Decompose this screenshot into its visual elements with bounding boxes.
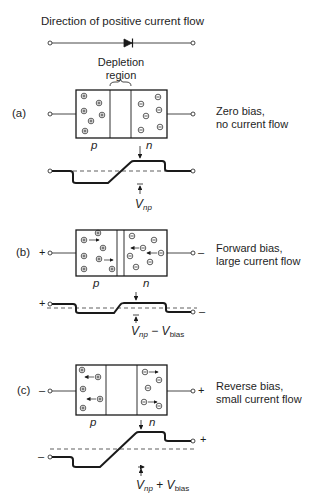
v-sub2-c: bias <box>175 484 190 493</box>
n-label-c: n <box>149 416 155 428</box>
description-a: Zero bias, no current flow <box>216 105 288 131</box>
description-b: Forward bias, large current flow <box>216 242 300 268</box>
voltage-label-b: Vnp − Vbias <box>131 324 184 339</box>
junction-box-b <box>48 230 195 276</box>
panel-label-a: (a) <box>12 107 26 119</box>
v-main-a: V <box>135 197 143 211</box>
left-band-sign-c: – <box>38 450 44 462</box>
voltage-label-c: Vnp + Vbias <box>136 478 189 493</box>
depletion-label-line2: region <box>97 69 145 82</box>
electrons-b <box>127 233 164 270</box>
v-sub2-b: bias <box>170 330 185 339</box>
description-c: Reverse bias, small current flow <box>216 380 302 406</box>
p-label-c: p <box>90 416 96 428</box>
v-main2-b: V <box>162 324 170 338</box>
panel-label-b: (b) <box>16 246 30 258</box>
p-label-b: p <box>93 277 99 289</box>
v-main-b: V <box>131 324 139 338</box>
diode-symbol <box>48 39 195 48</box>
panel-label-c: (c) <box>17 384 30 396</box>
right-band-sign-b: – <box>199 305 205 317</box>
v-main-c: V <box>136 478 144 492</box>
electrons-a <box>138 94 163 133</box>
right-terminal-sign-c: + <box>198 384 204 396</box>
v-op-c: + <box>153 478 167 492</box>
left-band-sign-b: + <box>39 297 45 309</box>
v-sub-c: np <box>144 484 153 493</box>
energy-band-b <box>47 292 197 323</box>
holes-c <box>79 367 103 411</box>
desc-c-line2: small current flow <box>216 393 302 406</box>
right-band-sign-c: + <box>200 433 206 445</box>
v-sub-b: np <box>139 330 148 339</box>
desc-a-line2: no current flow <box>216 118 288 131</box>
energy-band-a <box>48 146 195 194</box>
holes-b <box>81 230 115 272</box>
desc-b-line1: Forward bias, <box>216 242 300 255</box>
left-terminal-sign-c: – <box>39 384 45 396</box>
electrons-c <box>141 369 162 409</box>
p-label-a: p <box>91 139 97 151</box>
desc-a-line1: Zero bias, <box>216 105 288 118</box>
voltage-label-a: Vnp <box>135 197 152 212</box>
n-label-a: n <box>146 139 152 151</box>
left-terminal-sign-b: + <box>39 246 45 258</box>
junction-box-a <box>48 90 195 138</box>
junction-box-c <box>48 365 195 415</box>
desc-c-line1: Reverse bias, <box>216 380 302 393</box>
v-main2-c: V <box>167 478 175 492</box>
desc-b-line2: large current flow <box>216 255 300 268</box>
right-terminal-sign-b: – <box>198 246 204 258</box>
v-op-b: − <box>148 324 162 338</box>
v-sub-a: np <box>143 203 152 212</box>
n-label-b: n <box>143 277 149 289</box>
depletion-region-label: Depletion region <box>97 56 145 82</box>
holes-a <box>81 93 105 134</box>
depletion-label-line1: Depletion <box>97 56 145 69</box>
energy-band-c <box>48 420 197 476</box>
